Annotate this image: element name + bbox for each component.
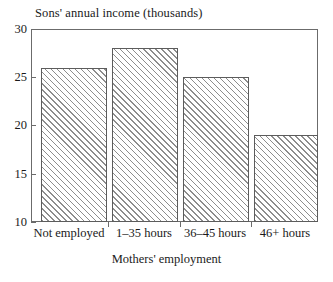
y-tick-label-25: 25 xyxy=(0,71,27,84)
x-axis-title: Mothers' employment xyxy=(0,252,333,267)
y-tick-mark-10 xyxy=(31,222,36,223)
y-axis-title: Sons' annual income (thousands) xyxy=(35,6,202,21)
x-tick-label-46-plus-hours: 46+ hours xyxy=(240,226,330,241)
bars-layer xyxy=(31,29,318,222)
y-tick-label-10: 10 xyxy=(0,216,27,229)
bar-36-45-hours xyxy=(183,77,249,222)
bar-not-employed xyxy=(41,68,107,222)
bar-chart-figure: Sons' annual income (thousands) 30 25 20… xyxy=(0,0,333,282)
y-tick-label-15: 15 xyxy=(0,168,27,181)
y-tick-label-20: 20 xyxy=(0,119,27,132)
bar-46-plus-hours xyxy=(254,135,318,222)
bar-1-35-hours xyxy=(112,48,178,222)
y-tick-label-30: 30 xyxy=(0,23,27,36)
